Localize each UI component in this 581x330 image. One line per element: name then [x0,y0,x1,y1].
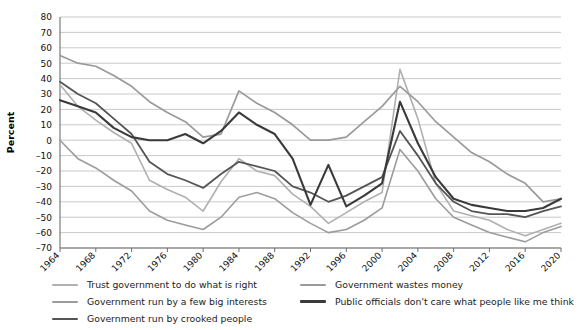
legend-item-label: Public officials don't care what people … [335,296,574,307]
x-tick-label: 1968 [74,250,97,273]
legend-line-swatch [300,300,326,303]
y-tick-label: –30 [36,182,52,192]
legend-line-swatch [52,318,78,320]
legend-item-label: Government wastes money [335,279,463,290]
legend-item[interactable]: Trust government to do what is right [52,276,302,293]
x-tick-label: 1976 [146,250,169,273]
y-tick-label: 50 [41,59,53,69]
y-axis-ticks: 80706050403020100–10–20–30–40–50–60–70 [36,12,52,253]
legend-item-label: Trust government to do what is right [87,279,257,290]
legend-item[interactable]: Public officials don't care what people … [300,293,581,310]
x-axis-ticks: 1964196819721976198019841988199219962000… [38,248,562,274]
y-tick-label: 40 [41,74,53,84]
x-tick-label: 1996 [324,250,347,273]
y-tick-label: 0 [46,136,52,146]
legend-item[interactable]: Government run by crooked people [52,310,302,327]
x-tick-label: 2008 [432,250,455,273]
x-tick-label: 1992 [289,250,312,273]
y-tick-label: 30 [41,89,53,99]
y-tick-label: 20 [41,105,53,115]
x-tick-label: 2000 [360,250,383,273]
chart-legend: Trust government to do what is rightGove… [52,276,581,330]
y-tick-label: –40 [36,197,52,207]
y-tick-label: –50 [36,213,52,223]
x-tick-label: 2012 [468,250,491,273]
x-tick-label: 1972 [110,250,133,273]
y-tick-label: –20 [36,166,52,176]
y-tick-label: –70 [36,243,52,253]
legend-item[interactable]: Government run by a few big interests [52,293,302,310]
legend-column-left: Trust government to do what is rightGove… [52,276,302,327]
legend-line-swatch [300,284,326,286]
line-chart-figure: 80706050403020100–10–20–30–40–50–60–7019… [0,0,581,330]
x-tick-label: 1964 [38,250,61,273]
x-tick-label: 2004 [396,250,419,273]
data-series-group [60,56,561,242]
y-tick-label: 10 [41,120,53,130]
x-tick-label: 1988 [253,250,276,273]
legend-item-label: Government run by crooked people [87,313,252,324]
y-tick-label: 60 [41,43,53,53]
legend-column-right: Government wastes moneyPublic officials … [300,276,581,310]
y-tick-label: 70 [41,28,53,38]
y-tick-label: 80 [41,12,53,22]
legend-item-label: Government run by a few big interests [87,296,267,307]
x-tick-label: 2020 [539,250,562,273]
x-tick-label: 1984 [217,250,240,273]
y-tick-label: –10 [36,151,52,161]
y-axis-title: Percent [5,111,16,153]
series-line-3 [60,56,561,202]
legend-item[interactable]: Government wastes money [300,276,581,293]
x-tick-label: 2016 [503,250,526,273]
x-tick-label: 1980 [181,250,204,273]
legend-line-swatch [52,301,78,303]
legend-line-swatch [52,284,78,286]
y-tick-label: –60 [36,228,52,238]
